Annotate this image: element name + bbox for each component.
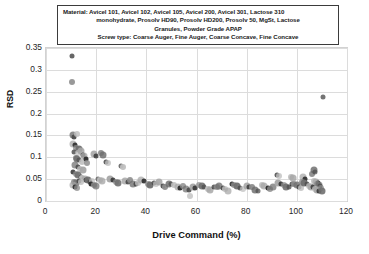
y-tick-label: 0.3 — [4, 64, 42, 73]
chart-annotation-box: Material: Avicel 101, Avicel 102, Avicel… — [57, 5, 339, 45]
y-tick-label: 0.2 — [4, 108, 42, 117]
data-point — [187, 193, 193, 199]
data-point — [320, 94, 325, 99]
data-point — [319, 188, 326, 195]
y-tick-label: 0.25 — [4, 86, 42, 95]
y-axis-ticks: 00.050.10.150.20.250.30.35 — [0, 47, 42, 202]
x-tick-label: 20 — [75, 206, 115, 216]
y-tick-label: 0 — [4, 196, 42, 205]
y-tick-label: 0.15 — [4, 130, 42, 139]
data-point — [93, 183, 100, 190]
annotation-line-3: Granules, Powder Grade APAP — [61, 25, 335, 33]
gridline-vertical — [197, 48, 198, 201]
data-point — [255, 188, 260, 193]
annotation-line-1: Material: Avicel 101, Avicel 102, Avicel… — [61, 8, 335, 16]
x-tick-label: 40 — [125, 206, 165, 216]
data-point — [105, 160, 111, 166]
gridline-horizontal — [46, 201, 347, 202]
x-tick-label: 80 — [226, 206, 266, 216]
data-point — [99, 151, 106, 158]
data-point — [74, 185, 80, 191]
gridline-vertical — [297, 48, 298, 201]
data-point — [74, 131, 80, 137]
gridline-vertical — [247, 48, 248, 201]
x-tick-label: 100 — [276, 206, 316, 216]
data-point — [69, 54, 74, 59]
x-tick-label: 120 — [326, 206, 366, 216]
x-axis-label: Drive Command (%) — [45, 230, 348, 240]
y-tick-label: 0.35 — [4, 43, 42, 52]
data-point — [69, 79, 75, 85]
data-point — [120, 164, 126, 170]
annotation-line-2: monohydrate, Prosolv HD90, Prosolv HD200… — [61, 16, 335, 24]
gridline-vertical — [146, 48, 147, 201]
data-point — [78, 179, 84, 185]
x-tick-label: 60 — [176, 206, 216, 216]
data-point — [276, 173, 282, 179]
scatter-chart-figure: Material: Avicel 101, Avicel 102, Avicel… — [0, 0, 369, 254]
data-point — [115, 180, 122, 187]
data-point — [98, 177, 105, 184]
x-tick-label: 0 — [25, 206, 65, 216]
gridline-vertical — [46, 48, 47, 201]
data-point — [84, 160, 90, 166]
gridline-vertical — [347, 48, 348, 201]
data-point — [224, 187, 231, 194]
x-axis-ticks: 020406080100120 — [45, 206, 348, 220]
y-tick-label: 0.05 — [4, 174, 42, 183]
y-tick-label: 0.1 — [4, 152, 42, 161]
annotation-line-4: Screw type: Coarse Auger, Fine Auger, Co… — [61, 33, 335, 41]
plot-area — [45, 47, 348, 202]
data-point — [313, 170, 318, 175]
